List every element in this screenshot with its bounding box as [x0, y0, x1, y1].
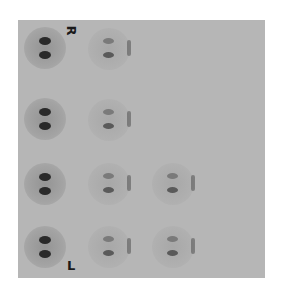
spot-r1-c1 — [24, 27, 66, 69]
spot-r3-c1 — [24, 163, 66, 205]
spot-r4-c3 — [152, 226, 194, 268]
orientation-marker-right: R — [65, 25, 78, 35]
orientation-marker-left: L — [67, 259, 75, 272]
spot-r4-c2 — [88, 226, 130, 268]
spot-r2-c2 — [88, 99, 130, 141]
spot-r1-c2 — [88, 28, 130, 70]
spot-r3-c3 — [152, 163, 194, 205]
spot-r2-c1 — [24, 98, 66, 140]
spot-r4-c1 — [24, 226, 66, 268]
spot-r3-c2 — [88, 163, 130, 205]
